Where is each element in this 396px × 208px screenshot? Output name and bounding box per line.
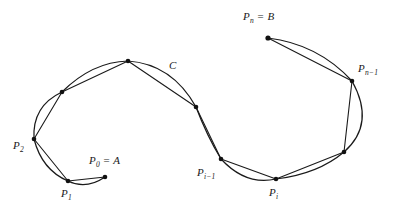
label-curve-c-text: C	[169, 59, 177, 71]
vertex-p4	[126, 59, 131, 64]
label-pi-minus-1-subscript: i−1	[204, 172, 216, 181]
label-p0-subscript: 0	[96, 160, 100, 169]
label-pi-subscript: i	[276, 192, 278, 201]
chord-pi1-pi	[221, 159, 276, 179]
vertex-pi	[274, 177, 279, 182]
label-pi-minus-1: Pi−1	[197, 167, 215, 178]
chord-p3-p4	[62, 61, 128, 92]
label-p0: P0 = A	[89, 155, 120, 166]
vertex-p0	[103, 175, 108, 180]
vertex-pi-minus-1	[219, 157, 224, 162]
chord-pi-pi2	[276, 152, 344, 179]
chord-p1-p2	[34, 139, 68, 181]
inscribed-polygon	[34, 38, 352, 181]
vertex-p2	[32, 137, 37, 142]
label-pi-base: P	[269, 186, 276, 198]
chord-pn1-pn	[268, 38, 352, 81]
label-p1-base: P	[61, 187, 68, 199]
label-pn-equals-b: = B	[254, 10, 274, 22]
label-p2: P2	[13, 140, 24, 151]
label-pn-base: P	[243, 10, 250, 22]
label-pi-minus-1-base: P	[197, 166, 204, 178]
vertex-p1	[66, 179, 71, 184]
vertex-pn-minus-1	[350, 79, 355, 84]
vertex-p3	[60, 90, 65, 95]
label-p2-base: P	[13, 139, 20, 151]
label-pn-minus-1-subscript: n−1	[365, 68, 378, 77]
label-p0-equals-a: = A	[100, 154, 120, 166]
label-curve-c: C	[169, 60, 177, 71]
curve-polygon-figure: C P0 = A P1 P2 Pi−1 Pi Pn−1 Pn = B	[0, 0, 396, 208]
label-pn: Pn = B	[243, 11, 274, 22]
label-p2-subscript: 2	[20, 145, 24, 154]
chord-p4-p5	[128, 61, 196, 107]
label-p0-base: P	[89, 154, 96, 166]
vertex-pi-plus-1	[342, 150, 347, 155]
vertex-p5	[194, 105, 199, 110]
label-pn-minus-1-base: P	[358, 62, 365, 74]
label-pn-subscript: n	[250, 16, 254, 25]
label-pn-minus-1: Pn−1	[358, 63, 378, 74]
label-p1-subscript: 1	[68, 193, 72, 202]
chord-p5-pi1	[196, 107, 221, 159]
curve-segment-pi2-pn1	[344, 81, 362, 152]
vertex-pn	[265, 35, 270, 40]
chord-pi2-pn1	[344, 81, 352, 152]
label-p1: P1	[61, 188, 72, 199]
label-pi: Pi	[269, 187, 278, 198]
